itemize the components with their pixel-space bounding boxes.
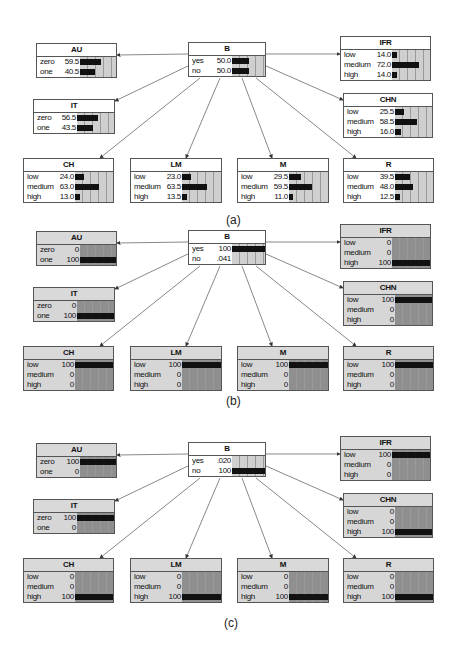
- state-row[interactable]: low100: [347, 295, 395, 305]
- state-row[interactable]: low0: [134, 572, 182, 582]
- state-row[interactable]: yes.020: [192, 456, 232, 466]
- state-row[interactable]: low100: [134, 360, 182, 370]
- node-ch[interactable]: CHlow100medium0high0: [23, 346, 114, 391]
- state-row[interactable]: high0: [241, 380, 289, 390]
- state-row[interactable]: yes100: [192, 244, 232, 254]
- state-row[interactable]: medium0: [347, 305, 395, 315]
- state-row[interactable]: low100: [241, 360, 289, 370]
- state-row[interactable]: medium63.0: [27, 182, 75, 192]
- state-row[interactable]: no.041: [192, 254, 232, 264]
- state-row[interactable]: high11.0: [241, 192, 289, 202]
- state-row[interactable]: high16.0: [347, 127, 395, 137]
- state-row[interactable]: low14.0: [344, 50, 392, 60]
- state-row[interactable]: one43.5: [37, 123, 77, 133]
- state-row[interactable]: medium0: [344, 248, 392, 258]
- state-row[interactable]: no50.0: [192, 66, 232, 76]
- state-row[interactable]: medium0: [347, 370, 395, 380]
- state-row[interactable]: medium0: [134, 370, 182, 380]
- state-row[interactable]: no100: [192, 466, 232, 476]
- state-row[interactable]: low25.5: [347, 107, 395, 117]
- node-ifr[interactable]: IFRlow100medium0high0: [340, 436, 431, 481]
- state-row[interactable]: zero56.5: [37, 113, 77, 123]
- state-row[interactable]: high100: [347, 527, 395, 537]
- state-row[interactable]: one0: [37, 523, 77, 533]
- state-row[interactable]: medium48.0: [347, 182, 395, 192]
- node-it[interactable]: ITzero0one100: [33, 287, 115, 322]
- state-row[interactable]: low0: [347, 507, 395, 517]
- state-row[interactable]: yes50.0: [192, 56, 232, 66]
- state-row[interactable]: medium0: [134, 582, 182, 592]
- state-row[interactable]: high13.5: [134, 192, 182, 202]
- state-row[interactable]: low0: [27, 572, 75, 582]
- state-row[interactable]: high0: [347, 380, 395, 390]
- state-row[interactable]: low100: [27, 360, 75, 370]
- node-r[interactable]: Rlow0medium0high100: [343, 558, 434, 603]
- state-row[interactable]: high100: [344, 258, 392, 268]
- state-row[interactable]: medium0: [241, 370, 289, 380]
- node-chn[interactable]: CHNlow25.5medium58.5high16.0: [343, 93, 433, 138]
- node-it[interactable]: ITzero56.5one43.5: [33, 99, 115, 134]
- state-row[interactable]: low0: [344, 238, 392, 248]
- state-row[interactable]: medium59.5: [241, 182, 289, 192]
- state-row[interactable]: high100: [241, 592, 289, 602]
- state-row[interactable]: zero59.5: [40, 57, 80, 67]
- state-row[interactable]: medium0: [27, 370, 75, 380]
- state-row[interactable]: one0: [40, 467, 80, 477]
- state-row[interactable]: one100: [37, 311, 77, 321]
- state-row[interactable]: high0: [27, 380, 75, 390]
- state-row[interactable]: one40.5: [40, 67, 80, 77]
- state-row[interactable]: zero0: [40, 245, 80, 255]
- node-au[interactable]: AUzero59.5one40.5: [36, 43, 117, 78]
- node-lm[interactable]: LMlow23.0medium63.5high13.5: [130, 158, 222, 203]
- node-b[interactable]: Byes50.0no50.0: [188, 42, 266, 77]
- state-row[interactable]: medium58.5: [347, 117, 395, 127]
- state-row[interactable]: low29.5: [241, 172, 289, 182]
- state-row[interactable]: low24.0: [27, 172, 75, 182]
- state-row[interactable]: medium0: [347, 582, 395, 592]
- node-au[interactable]: AUzero0one100: [36, 231, 117, 266]
- node-m[interactable]: Mlow29.5medium59.5high11.0: [237, 158, 329, 203]
- state-row[interactable]: high0: [347, 315, 395, 325]
- state-row[interactable]: high0: [134, 380, 182, 390]
- node-r[interactable]: Rlow100medium0high0: [343, 346, 434, 391]
- state-row[interactable]: high12.5: [347, 192, 395, 202]
- state-row[interactable]: high14.0: [344, 70, 392, 80]
- node-b[interactable]: Byes.020no100: [188, 442, 266, 477]
- state-row[interactable]: one100: [40, 255, 80, 265]
- state-row[interactable]: low0: [241, 572, 289, 582]
- state-row[interactable]: high13.0: [27, 192, 75, 202]
- node-ifr[interactable]: IFRlow14.0medium72.0high14.0: [340, 36, 431, 81]
- state-row[interactable]: low23.0: [134, 172, 182, 182]
- state-row[interactable]: medium72.0: [344, 60, 392, 70]
- node-ch[interactable]: CHlow0medium0high100: [23, 558, 114, 603]
- state-row[interactable]: zero100: [40, 457, 80, 467]
- node-b[interactable]: Byes100no.041: [188, 230, 266, 265]
- node-m[interactable]: Mlow100medium0high0: [237, 346, 329, 391]
- node-r[interactable]: Rlow39.5medium48.0high12.5: [343, 158, 434, 203]
- state-row[interactable]: low100: [347, 360, 395, 370]
- node-m[interactable]: Mlow0medium0high100: [237, 558, 329, 603]
- state-row[interactable]: high0: [344, 470, 392, 480]
- state-row[interactable]: high100: [134, 592, 182, 602]
- node-lm[interactable]: LMlow100medium0high0: [130, 346, 222, 391]
- state-row[interactable]: medium0: [27, 582, 75, 592]
- state-row[interactable]: zero0: [37, 301, 77, 311]
- state-label: low: [347, 295, 377, 305]
- node-lm[interactable]: LMlow0medium0high100: [130, 558, 222, 603]
- node-chn[interactable]: CHNlow0medium0high100: [343, 493, 433, 538]
- node-ch[interactable]: CHlow24.0medium63.0high13.0: [23, 158, 114, 203]
- state-row[interactable]: medium0: [347, 517, 395, 527]
- node-ifr[interactable]: IFRlow0medium0high100: [340, 224, 431, 269]
- state-row[interactable]: high100: [27, 592, 75, 602]
- state-row[interactable]: zero100: [37, 513, 77, 523]
- node-it[interactable]: ITzero100one0: [33, 499, 115, 534]
- node-au[interactable]: AUzero100one0: [36, 443, 117, 478]
- state-row[interactable]: low39.5: [347, 172, 395, 182]
- state-row[interactable]: low0: [347, 572, 395, 582]
- state-row[interactable]: high100: [347, 592, 395, 602]
- state-row[interactable]: medium63.5: [134, 182, 182, 192]
- state-row[interactable]: medium0: [241, 582, 289, 592]
- state-row[interactable]: low100: [344, 450, 392, 460]
- state-row[interactable]: medium0: [344, 460, 392, 470]
- node-chn[interactable]: CHNlow100medium0high0: [343, 281, 433, 326]
